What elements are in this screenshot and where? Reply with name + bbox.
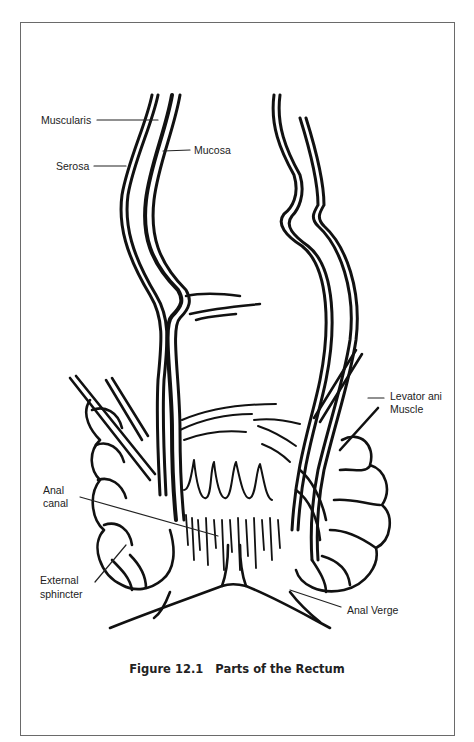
anal-canal-striations <box>186 515 280 570</box>
figure-title: Parts of the Rectum <box>215 662 344 676</box>
label-external-sphincter-line1: External <box>40 574 79 587</box>
anal-verge-contour <box>110 545 330 628</box>
label-serosa: Serosa <box>56 160 89 173</box>
label-anal-canal-line1: Anal <box>43 484 64 497</box>
rectum-illustration <box>0 0 474 742</box>
right-external-sphincter <box>296 437 390 592</box>
label-anal-canal-line2: canal <box>43 497 68 510</box>
leader-lines <box>80 120 384 607</box>
label-levator-ani-line2: Muscle <box>390 403 423 416</box>
rectal-folds <box>180 404 300 462</box>
anal-columns <box>184 460 272 500</box>
label-external-sphincter-line2: sphincter <box>40 588 83 601</box>
label-anal-verge: Anal Verge <box>347 604 398 617</box>
left-folds <box>186 294 260 320</box>
figure-caption: Figure 12.1Parts of the Rectum <box>0 662 474 676</box>
left-levator <box>70 376 155 480</box>
label-levator-ani-line1: Levator ani <box>390 390 442 403</box>
figure-number: Figure 12.1 <box>129 662 203 676</box>
label-muscularis: Muscularis <box>41 114 91 127</box>
label-mucosa: Mucosa <box>194 144 231 157</box>
